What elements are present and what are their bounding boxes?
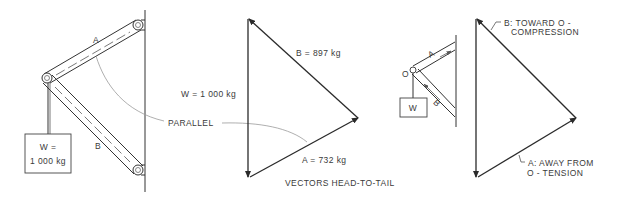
left-structure-diagram: W = 1 000 kg A B — [25, 10, 145, 192]
w-vector-label: W = 1 000 kg — [181, 89, 236, 99]
right-small-diagram: W O A B — [400, 35, 456, 127]
member-b-label: B — [95, 141, 101, 151]
small-weight-label: W — [409, 103, 417, 113]
vector-b — [249, 19, 358, 118]
member-a-label: A — [93, 35, 99, 45]
b-vector-label: B = 897 kg — [296, 48, 341, 58]
parallel-label: PARALLEL — [168, 118, 214, 128]
joint-pin-icon — [42, 73, 52, 83]
weight-label-line2: 1 000 kg — [30, 156, 66, 166]
a-direction-label-line2: O - TENSION — [527, 168, 583, 178]
right-vector-triangle: B: TOWARD O - COMPRESSION A: AWAY FROM O… — [476, 18, 594, 178]
small-joint-icon — [410, 67, 416, 73]
middle-vector-triangle: W = 1 000 kg B = 897 kg A = 732 kg VECTO… — [181, 19, 395, 188]
vectors-caption: VECTORS HEAD-TO-TAIL — [285, 178, 395, 188]
weight-label-line1: W = — [40, 142, 57, 152]
a-direction-label-line1: A: AWAY FROM — [528, 158, 594, 168]
top-pin-icon — [133, 20, 143, 30]
b-direction-label-line2: COMPRESSION — [511, 27, 579, 37]
force-diagram-figure: W = 1 000 kg A B PARALLEL W = 1 000 kg B… — [0, 0, 617, 198]
member-a — [44, 20, 141, 83]
weight-box — [25, 134, 71, 173]
small-member-b-label: B — [431, 97, 442, 108]
a-vector-label: A = 732 kg — [302, 155, 346, 165]
parallel-connector: PARALLEL — [96, 56, 307, 142]
bottom-pin-icon — [133, 165, 143, 175]
vector-a — [250, 118, 358, 177]
joint-o-label: O — [402, 69, 409, 79]
